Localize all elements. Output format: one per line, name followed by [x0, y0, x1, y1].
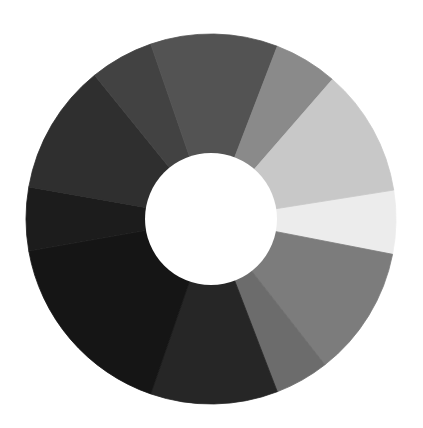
- value-wheel: [0, 0, 423, 428]
- center-hole: [145, 153, 277, 285]
